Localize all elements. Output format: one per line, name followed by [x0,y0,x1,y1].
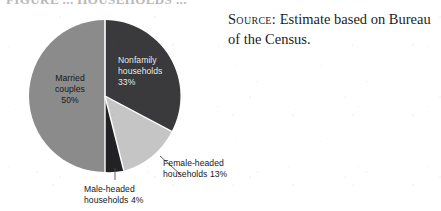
figure-container: FIGURE ... HOUSEHOLDS ... Nonfamily hous… [0,0,441,211]
pie-label-male-headed-households: Male-headed households 4% [84,184,143,206]
pie-label-married-couples: Married couples 50% [42,73,98,107]
source-note: Source: Estimate based on Bureau of the … [228,9,434,49]
clipped-figure-heading: FIGURE ... HOUSEHOLDS ... [6,0,306,4]
pie-label-nonfamily-households: Nonfamily households 33% [118,55,162,89]
source-label: Source: [228,11,276,27]
pie-label-female-headed-households: Female-headed households 13% [163,158,227,180]
